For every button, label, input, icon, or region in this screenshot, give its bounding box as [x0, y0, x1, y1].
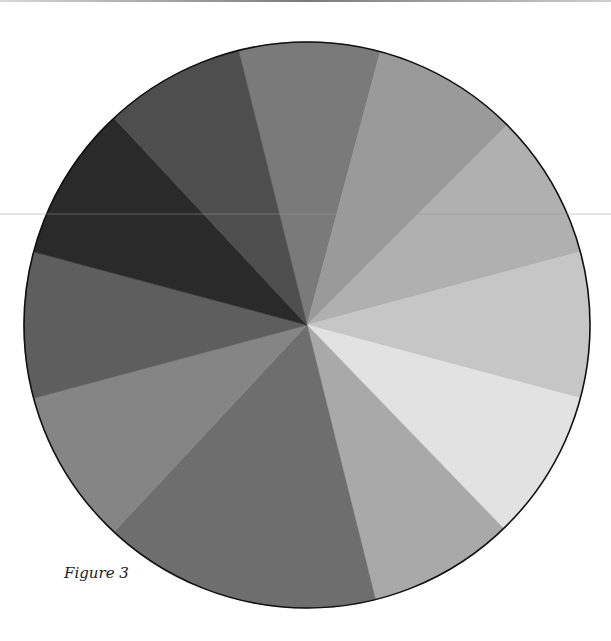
pie-chart	[0, 0, 611, 641]
scan-artifact-line	[0, 213, 611, 215]
figure-caption: Figure 3	[64, 564, 129, 582]
